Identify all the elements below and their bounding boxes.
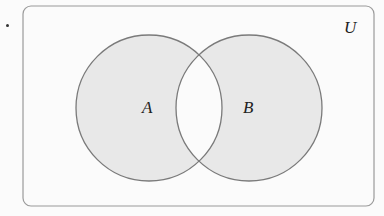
set-a-label: A bbox=[141, 98, 153, 117]
set-b-label: B bbox=[243, 98, 254, 117]
venn-diagram: U A B bbox=[0, 0, 384, 216]
universe-label: U bbox=[344, 18, 358, 37]
